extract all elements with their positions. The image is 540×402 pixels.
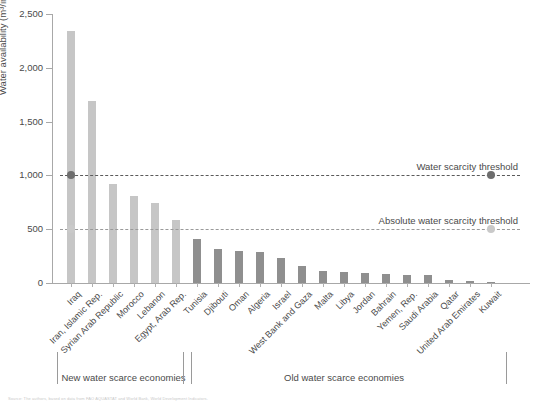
bars-layer	[52, 14, 530, 283]
x-axis-line	[52, 283, 530, 284]
y-axis-tick-label: 1,000	[0, 169, 43, 180]
bar	[403, 275, 411, 283]
x-axis-tick	[260, 283, 261, 287]
y-axis-tick-label: 0	[0, 277, 43, 288]
y-axis-tick-label: 2,500	[0, 8, 43, 19]
x-axis-tick	[134, 283, 135, 287]
bar	[277, 258, 285, 283]
x-axis-tick	[428, 283, 429, 287]
x-axis-label: Kuwait	[477, 289, 503, 315]
x-axis-tick	[176, 283, 177, 287]
bar	[382, 274, 390, 283]
bar	[319, 271, 327, 283]
bar	[256, 252, 264, 283]
threshold-line	[60, 175, 520, 176]
group-label: New water scarce economies	[57, 372, 190, 383]
source-note: Source: The authors, based on data from …	[8, 396, 208, 401]
x-axis-tick	[344, 283, 345, 287]
bar	[109, 184, 117, 283]
y-axis-tick-label: 1,500	[0, 116, 43, 127]
x-axis-tick	[491, 283, 492, 287]
x-axis-tick	[155, 283, 156, 287]
y-axis-tick-label: 2,000	[0, 62, 43, 73]
x-axis-label: Malta	[312, 289, 335, 312]
x-axis-tick	[449, 283, 450, 287]
bar	[214, 249, 222, 283]
x-axis-tick	[218, 283, 219, 287]
bar	[88, 101, 96, 283]
y-axis-tick	[46, 283, 52, 284]
x-axis-tick	[365, 283, 366, 287]
threshold-label: Absolute water scarcity threshold	[379, 215, 518, 226]
x-axis-tick	[281, 283, 282, 287]
bar	[151, 203, 159, 283]
threshold-line	[60, 229, 520, 230]
bar	[193, 239, 201, 283]
bar	[340, 272, 348, 283]
bar	[67, 31, 75, 283]
group-label: Old water scarce economies	[183, 372, 505, 383]
x-axis-tick	[113, 283, 114, 287]
y-axis-tick-label: 500	[0, 223, 43, 234]
water-availability-chart: Water availability (m³/inhabitant/year) …	[0, 0, 540, 402]
x-axis-label: Algeria	[245, 289, 272, 316]
x-axis-tick	[92, 283, 93, 287]
x-axis-tick	[407, 283, 408, 287]
x-axis-tick	[302, 283, 303, 287]
bar	[361, 273, 369, 283]
bar	[235, 251, 243, 283]
bar	[130, 196, 138, 283]
threshold-label: Water scarcity threshold	[416, 161, 518, 172]
x-axis-tick	[470, 283, 471, 287]
x-axis-tick	[197, 283, 198, 287]
x-axis-tick	[323, 283, 324, 287]
x-axis-tick	[71, 283, 72, 287]
x-axis-tick	[239, 283, 240, 287]
bar	[424, 275, 432, 283]
bar	[298, 266, 306, 283]
x-axis-tick	[386, 283, 387, 287]
